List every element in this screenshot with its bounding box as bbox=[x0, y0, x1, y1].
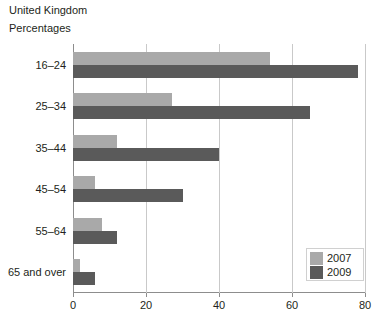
bar-2009 bbox=[73, 106, 310, 119]
bar-2009 bbox=[73, 148, 219, 161]
y-category-label: 16–24 bbox=[0, 59, 66, 71]
x-tick-mark bbox=[146, 293, 147, 297]
gridline bbox=[146, 44, 147, 293]
x-tick-mark bbox=[292, 293, 293, 297]
x-tick-mark bbox=[365, 293, 366, 297]
x-tick-label: 20 bbox=[140, 299, 152, 311]
legend-label-2009: 2009 bbox=[327, 265, 351, 279]
legend-swatch-2009 bbox=[310, 266, 323, 279]
x-tick-label: 40 bbox=[213, 299, 225, 311]
gridline bbox=[219, 44, 220, 293]
bar-2007 bbox=[73, 93, 172, 106]
x-tick-mark bbox=[73, 293, 74, 297]
y-category-label: 25–34 bbox=[0, 100, 66, 112]
x-tick-label: 60 bbox=[286, 299, 298, 311]
legend-label-2007: 2007 bbox=[327, 251, 351, 265]
chart-subtitle-units: Percentages bbox=[9, 22, 71, 34]
bar-2007 bbox=[73, 52, 270, 65]
y-category-label: 55–64 bbox=[0, 225, 66, 237]
x-tick-label: 0 bbox=[70, 299, 76, 311]
gridline bbox=[365, 44, 366, 293]
y-category-label: 35–44 bbox=[0, 142, 66, 154]
bar-2009 bbox=[73, 231, 117, 244]
bar-2007 bbox=[73, 135, 117, 148]
legend-swatch-2007 bbox=[310, 252, 323, 265]
y-category-label: 45–54 bbox=[0, 183, 66, 195]
bar-2007 bbox=[73, 218, 102, 231]
chart-legend: 2007 2009 bbox=[306, 248, 364, 281]
bar-2009 bbox=[73, 189, 183, 202]
x-tick-label: 80 bbox=[359, 299, 371, 311]
x-tick-mark bbox=[219, 293, 220, 297]
bar-2009 bbox=[73, 272, 95, 285]
bar-2009 bbox=[73, 65, 358, 78]
bar-2007 bbox=[73, 259, 80, 272]
chart-container: United Kingdom Percentages 020406080 16–… bbox=[0, 0, 384, 322]
y-category-label: 65 and over bbox=[0, 266, 66, 278]
bar-2007 bbox=[73, 176, 95, 189]
gridline bbox=[292, 44, 293, 293]
chart-title-country: United Kingdom bbox=[9, 4, 87, 16]
